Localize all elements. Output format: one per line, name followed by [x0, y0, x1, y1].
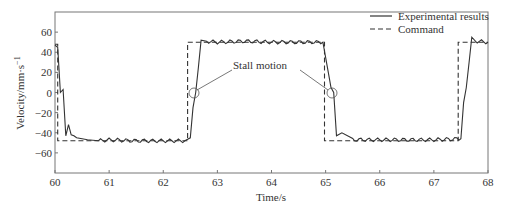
y-tick-label: −40	[35, 127, 53, 139]
x-tick-label: 64	[266, 176, 278, 188]
annotation-label: Stall motion	[233, 59, 288, 71]
y-tick-label: −60	[35, 147, 53, 159]
stall-circle-1	[189, 88, 199, 98]
annotation-leader-left	[197, 70, 232, 90]
y-tick-label: −20	[35, 107, 53, 119]
x-tick-label: 62	[158, 176, 169, 188]
x-axis-title: Time/s	[256, 191, 286, 203]
legend-label-command: Command	[398, 23, 444, 35]
series-experimental-line	[55, 37, 488, 142]
x-tick-label: 63	[212, 176, 224, 188]
stall-motion-annotation: Stall motion	[189, 59, 337, 98]
plot-frame	[55, 12, 488, 173]
y-axis-title: Velocity/mm·s−1	[13, 56, 26, 129]
x-tick-label: 68	[483, 176, 495, 188]
y-tick-label: 40	[41, 46, 53, 58]
velocity-chart: 606162636465666768 −60−40−200204060 Time…	[0, 0, 514, 208]
y-axis-unit-superscript: −1	[13, 56, 22, 65]
annotation-leader-right	[300, 70, 328, 90]
series-group	[55, 37, 488, 142]
y-tick-label: 20	[41, 66, 53, 78]
legend: Experimental results Command	[370, 10, 489, 35]
x-tick-label: 60	[50, 176, 62, 188]
series-command-line	[55, 42, 488, 141]
x-tick-label: 65	[320, 176, 332, 188]
x-tick-label: 66	[374, 176, 386, 188]
y-tick-label: 0	[47, 87, 53, 99]
plot-border	[55, 12, 488, 173]
x-tick-label: 61	[104, 176, 115, 188]
x-tick-label: 67	[428, 176, 440, 188]
y-tick-label: 60	[41, 26, 53, 38]
legend-label-experimental: Experimental results	[398, 10, 489, 22]
